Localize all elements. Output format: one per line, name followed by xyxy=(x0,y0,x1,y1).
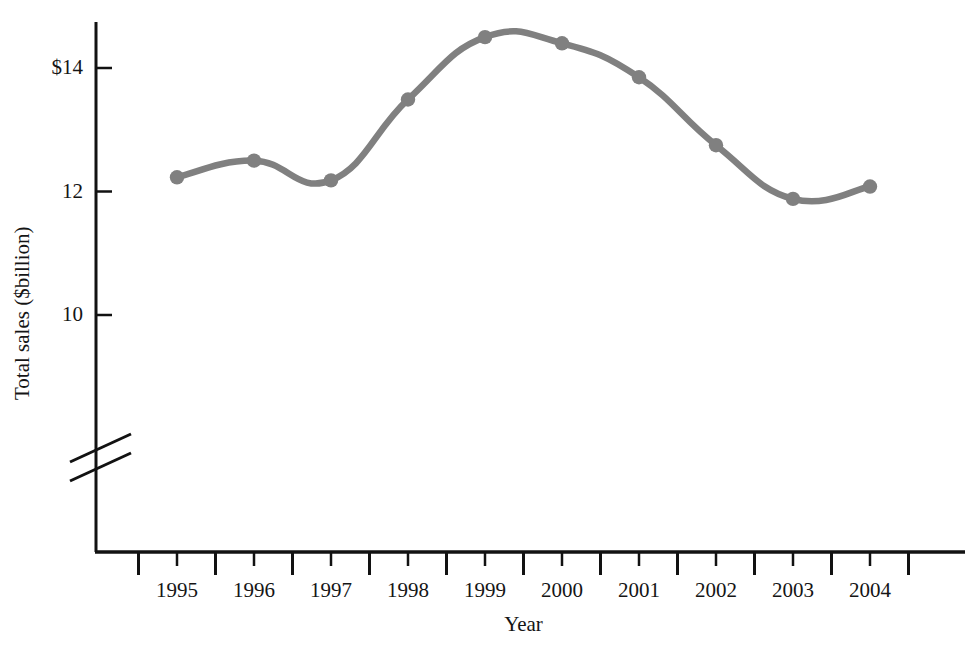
data-point-marker xyxy=(786,192,800,206)
y-axis-break-icon xyxy=(70,434,131,481)
x-axis-title: Year xyxy=(424,612,624,637)
y-tick-marks xyxy=(96,68,112,315)
data-point-marker xyxy=(478,30,492,44)
chart-figure: $141210 19951996199719981999200020012002… xyxy=(0,0,979,659)
axes-group xyxy=(95,22,965,552)
x-tick-label: 2004 xyxy=(810,580,930,601)
data-point-marker xyxy=(324,173,338,187)
sales-line-series xyxy=(177,31,870,201)
data-point-marker xyxy=(632,70,646,84)
data-point-marker xyxy=(170,170,184,184)
data-point-marker xyxy=(709,138,723,152)
y-axis-title: Total sales ($billion) xyxy=(10,0,35,400)
data-point-marker xyxy=(863,179,877,193)
line-chart-canvas xyxy=(0,0,979,659)
sales-data-markers xyxy=(170,30,877,206)
data-point-marker xyxy=(247,153,261,167)
data-point-marker xyxy=(401,92,415,106)
x-tick-marks xyxy=(139,552,909,575)
data-point-marker xyxy=(555,36,569,50)
